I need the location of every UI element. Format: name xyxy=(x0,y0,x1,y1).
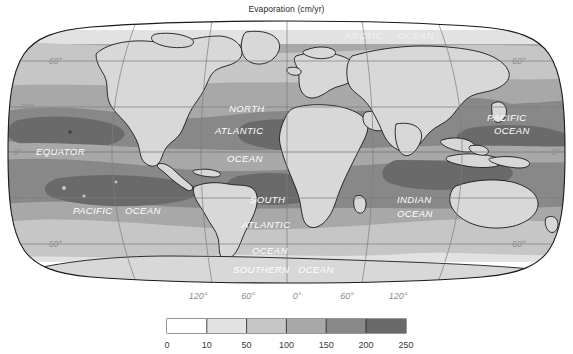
lon-label-0: 0° xyxy=(293,291,302,301)
label-pacific-left: PACIFIC xyxy=(73,205,113,216)
evaporation-map-figure: Evaporation (cm/yr) xyxy=(0,0,573,354)
label-south: SOUTH xyxy=(250,194,285,205)
legend-tick-150: 150 xyxy=(319,340,334,350)
label-north: NORTH xyxy=(229,103,265,114)
legend-swatch-100-150[interactable] xyxy=(286,319,326,333)
evaporation-speck xyxy=(115,181,118,184)
lon-label-120w: 120° xyxy=(189,291,208,301)
lat-label-left-60s: 60° xyxy=(48,239,62,249)
label-indian: INDIAN xyxy=(397,194,432,205)
legend-tick-10: 10 xyxy=(202,340,212,350)
legend-tick-0: 0 xyxy=(164,340,169,350)
legend-swatch-10-50[interactable] xyxy=(207,319,247,333)
legend-tick-100: 100 xyxy=(279,340,294,350)
lon-label-120e: 120° xyxy=(389,291,408,301)
label-atlantic-ocean: OCEAN xyxy=(227,153,263,164)
equator-label: EQUATOR xyxy=(36,146,85,157)
label-indian-ocean: OCEAN xyxy=(397,208,433,219)
label-arctic: ARCTIC xyxy=(344,30,383,41)
label-arctic-ocean: OCEAN xyxy=(398,30,434,41)
lat-label-right-0: 0° xyxy=(552,147,561,157)
lat-label-left-30n: 30° xyxy=(20,102,34,112)
label-southern: SOUTHERN xyxy=(233,264,290,275)
lat-label-right-60s: 60° xyxy=(512,239,526,249)
legend-swatch-0-10[interactable] xyxy=(167,319,207,333)
legend-swatch-150-200[interactable] xyxy=(326,319,366,333)
label-atlantic: ATLANTIC xyxy=(214,125,263,136)
lat-label-left-30s: 30° xyxy=(20,193,34,203)
lat-label-left-60n: 60° xyxy=(48,56,62,66)
legend: 0 10 50 100 150 200 250 xyxy=(164,319,413,350)
legend-swatch-50-100[interactable] xyxy=(247,319,287,333)
legend-swatch-200-250[interactable] xyxy=(366,319,406,333)
map-canvas: 60° 30° 0° 30° 60° 60° 30° 0° 30° 60° 12… xyxy=(0,0,573,354)
evaporation-speck xyxy=(68,130,72,134)
evaporation-speck xyxy=(82,194,85,197)
lat-label-right-60n: 60° xyxy=(512,56,526,66)
label-south-atlantic-ocean: OCEAN xyxy=(252,245,288,256)
label-southern-ocean: OCEAN xyxy=(298,264,334,275)
legend-tick-200: 200 xyxy=(358,340,373,350)
legend-tick-50: 50 xyxy=(242,340,252,350)
label-pacific-right: PACIFIC xyxy=(487,112,527,123)
evaporation-speck xyxy=(62,186,66,190)
label-pacific-right-ocean: OCEAN xyxy=(494,125,530,136)
legend-tick-250: 250 xyxy=(398,340,413,350)
map-body xyxy=(0,0,573,303)
lat-label-right-30n: 30° xyxy=(540,102,554,112)
label-pacific-left-ocean: OCEAN xyxy=(125,205,161,216)
lon-label-60e: 60° xyxy=(340,291,354,301)
lat-label-right-30s: 30° xyxy=(540,193,554,203)
lon-label-60w: 60° xyxy=(241,291,255,301)
label-south-atlantic: ATLANTIC xyxy=(241,219,290,230)
lat-label-left-0: 0° xyxy=(13,147,22,157)
page-title: Evaporation (cm/yr) xyxy=(0,4,573,14)
